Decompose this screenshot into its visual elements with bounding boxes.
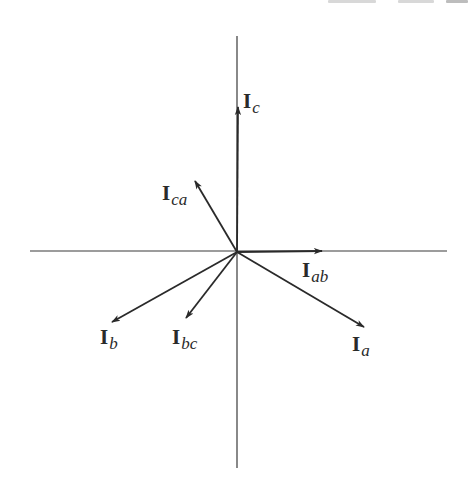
label-Ia: Ia bbox=[352, 334, 370, 355]
phasor-arrow-Ica bbox=[195, 181, 237, 252]
label-subscript: bc bbox=[181, 334, 197, 353]
label-Ic: Ic bbox=[243, 91, 260, 112]
label-Ibc: Ibc bbox=[172, 327, 197, 348]
label-Iab: Iab bbox=[302, 260, 328, 281]
label-Ica: Ica bbox=[162, 183, 187, 204]
label-main: I bbox=[100, 325, 108, 349]
label-Ib: Ib bbox=[100, 327, 118, 348]
phasor-arrow-Ic bbox=[237, 107, 238, 252]
label-main: I bbox=[352, 332, 360, 356]
phasor-arrow-Iab bbox=[237, 251, 322, 252]
label-main: I bbox=[172, 325, 180, 349]
clipped-text-fragment bbox=[328, 0, 376, 3]
phasor-diagram bbox=[0, 0, 470, 490]
phasor-arrow-Ia bbox=[237, 252, 364, 327]
label-subscript: c bbox=[252, 98, 260, 117]
label-main: I bbox=[243, 89, 251, 113]
label-subscript: b bbox=[109, 334, 118, 353]
phasor-arrow-Ib bbox=[112, 252, 237, 322]
clipped-text-fragment bbox=[446, 0, 468, 3]
label-subscript: ab bbox=[311, 267, 328, 286]
label-main: I bbox=[162, 181, 170, 205]
clipped-text-fragment bbox=[398, 0, 434, 3]
label-subscript: a bbox=[361, 341, 370, 360]
label-subscript: ca bbox=[171, 190, 187, 209]
label-main: I bbox=[302, 258, 310, 282]
phasor-arrow-Ibc bbox=[186, 252, 237, 318]
